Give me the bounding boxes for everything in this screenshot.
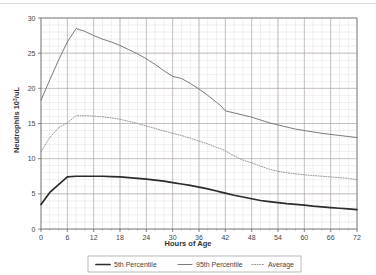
x-tick-label: 42 — [221, 234, 229, 241]
y-tick-label: 20 — [28, 85, 36, 92]
legend-label-5th-percentile: 5th Percentile — [114, 261, 157, 268]
y-axis-title: Neutrophils 103/uL — [12, 87, 22, 154]
y-tick-label: 25 — [28, 50, 36, 57]
legend-label-average: Average — [268, 261, 294, 269]
grid-major — [41, 18, 357, 229]
x-tick-label: 18 — [116, 234, 124, 241]
x-axis-title: Hours of Age — [165, 239, 212, 248]
axis-ticks — [38, 18, 357, 232]
chart-legend: 5th Percentile95th PercentileAverage — [88, 256, 301, 272]
y-axis-title-group: Neutrophils 103/uL — [12, 87, 22, 154]
y-tick-labels: 051015202530 — [28, 15, 36, 233]
x-tick-label: 60 — [300, 234, 308, 241]
x-tick-label: 0 — [39, 234, 43, 241]
x-tick-label: 24 — [142, 234, 150, 241]
chart-figure: 061218243036424854606672 051015202530 Ho… — [0, 0, 376, 275]
y-tick-label: 5 — [32, 190, 36, 197]
x-tick-label: 12 — [90, 234, 98, 241]
x-tick-label: 6 — [65, 234, 69, 241]
y-tick-label: 15 — [28, 120, 36, 127]
legend-label-95th-percentile: 95th Percentile — [196, 261, 243, 268]
y-tick-label: 0 — [32, 226, 36, 233]
y-tick-label: 30 — [28, 15, 36, 22]
y-tick-label: 10 — [28, 155, 36, 162]
x-tick-label: 66 — [327, 234, 335, 241]
x-tick-label: 48 — [248, 234, 256, 241]
top-rule-divider — [0, 3, 376, 4]
x-tick-label: 54 — [274, 234, 282, 241]
x-tick-label: 72 — [353, 234, 361, 241]
neutrophils-line-chart: 061218243036424854606672 051015202530 Ho… — [0, 0, 376, 275]
